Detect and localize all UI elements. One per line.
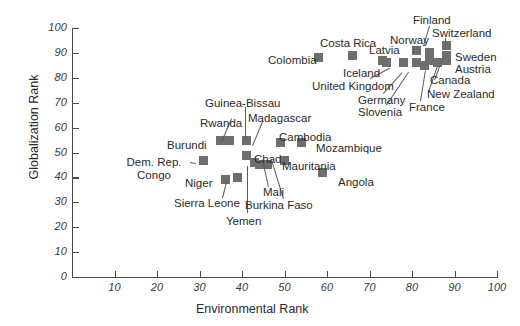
x-axis-tick bbox=[200, 271, 201, 277]
y-axis-tick bbox=[73, 128, 79, 129]
x-axis-tick bbox=[370, 271, 371, 277]
x-axis-tick bbox=[157, 271, 158, 277]
point-label-dem-rep-congo: Dem. Rep. Congo bbox=[118, 156, 190, 181]
point-label-burundi: Burundi bbox=[167, 139, 207, 151]
x-axis-tick-label: 30 bbox=[185, 281, 215, 293]
y-axis-tick-label: 40 bbox=[37, 170, 67, 182]
x-axis-tick-label: 100 bbox=[482, 281, 512, 293]
point-label-angola: Angola bbox=[338, 176, 374, 188]
point-label-mali: Mali bbox=[263, 186, 284, 198]
y-axis-tick-label: 0 bbox=[37, 270, 67, 282]
label-leader-line bbox=[190, 162, 196, 164]
y-axis-tick bbox=[73, 202, 79, 203]
data-point-marker bbox=[399, 58, 408, 67]
point-label-chad: Chad bbox=[254, 153, 282, 165]
x-axis-tick bbox=[242, 271, 243, 277]
point-label-rwanda: Rwanda bbox=[200, 117, 242, 129]
y-axis-tick bbox=[73, 103, 79, 104]
y-axis-tick bbox=[73, 227, 79, 228]
point-label-colombia: Colombia bbox=[268, 54, 317, 66]
label-leader-line bbox=[245, 107, 246, 139]
label-leader-line bbox=[413, 46, 414, 54]
data-point-marker bbox=[242, 136, 251, 145]
y-axis-tick bbox=[73, 28, 79, 29]
point-label-mozambique: Mozambique bbox=[316, 142, 382, 154]
point-label-guinea-bissau: Guinea-Bissau bbox=[205, 97, 280, 109]
point-label-costa-rica: Costa Rica bbox=[320, 37, 376, 49]
x-axis-tick-label: 90 bbox=[440, 281, 470, 293]
y-axis-tick-label: 50 bbox=[37, 146, 67, 158]
y-axis-tick-label: 30 bbox=[37, 195, 67, 207]
point-label-finland: Finland bbox=[413, 14, 451, 26]
y-axis-tick-label: 100 bbox=[37, 21, 67, 33]
y-axis-tick bbox=[73, 177, 79, 178]
point-label-united-kingdom: United Kingdom bbox=[312, 80, 394, 92]
x-axis-tick-label: 10 bbox=[100, 281, 130, 293]
point-label-yemen: Yemen bbox=[226, 215, 261, 227]
data-point-marker bbox=[225, 136, 234, 145]
data-point-marker bbox=[382, 58, 391, 67]
label-leader-line bbox=[445, 38, 446, 46]
point-label-niger: Niger bbox=[185, 177, 212, 189]
x-axis-tick-label: 70 bbox=[355, 281, 385, 293]
y-axis-tick-label: 70 bbox=[37, 96, 67, 108]
point-label-switzerland: Switzerland bbox=[432, 27, 491, 39]
x-axis-tick-label: 40 bbox=[227, 281, 257, 293]
x-axis-tick bbox=[327, 271, 328, 277]
point-label-madagascar: Madagascar bbox=[248, 112, 311, 124]
y-axis-tick bbox=[73, 252, 79, 253]
point-label-canada: Canada bbox=[430, 74, 470, 86]
x-axis-tick-label: 20 bbox=[142, 281, 172, 293]
point-label-sweden: Sweden bbox=[455, 51, 497, 63]
x-axis-tick bbox=[497, 271, 498, 277]
point-label-norway: Norway bbox=[390, 34, 429, 46]
x-axis-title: Environmental Rank bbox=[196, 302, 309, 316]
x-axis-line bbox=[72, 277, 498, 278]
data-point-marker bbox=[442, 56, 451, 65]
x-axis-tick-label: 80 bbox=[397, 281, 427, 293]
data-point-marker bbox=[442, 41, 451, 50]
scatter-chart: Globalization Rank Environmental Rank 01… bbox=[0, 0, 520, 326]
point-label-slovenia: Slovenia bbox=[358, 106, 402, 118]
x-axis-tick-label: 60 bbox=[312, 281, 342, 293]
y-axis-tick bbox=[73, 153, 79, 154]
point-label-mauritania: Mauritania bbox=[282, 160, 336, 172]
label-leader-line bbox=[222, 182, 227, 198]
y-axis-tick-label: 10 bbox=[37, 245, 67, 257]
data-point-marker bbox=[199, 156, 208, 165]
x-axis-tick-label: 50 bbox=[270, 281, 300, 293]
y-axis-tick-label: 80 bbox=[37, 71, 67, 83]
y-axis-tick-label: 90 bbox=[37, 46, 67, 58]
x-axis-tick bbox=[455, 271, 456, 277]
x-axis-tick bbox=[285, 271, 286, 277]
point-label-sierra-leone: Sierra Leone bbox=[174, 197, 240, 209]
x-axis-tick bbox=[412, 271, 413, 277]
y-axis-tick bbox=[73, 53, 79, 54]
y-axis-tick bbox=[73, 78, 79, 79]
x-axis-tick bbox=[115, 271, 116, 277]
point-label-austria: Austria bbox=[455, 63, 491, 75]
point-label-burkina-faso: Burkina Faso bbox=[245, 199, 313, 211]
data-point-marker bbox=[348, 51, 357, 60]
point-label-iceland: Iceland bbox=[343, 67, 380, 79]
data-point-marker bbox=[233, 173, 242, 182]
label-leader-line bbox=[252, 122, 263, 146]
point-label-france: France bbox=[409, 101, 445, 113]
label-leader-line bbox=[420, 70, 426, 101]
y-axis-tick-label: 20 bbox=[37, 220, 67, 232]
y-axis-tick bbox=[73, 277, 79, 278]
point-label-new-zealand: New Zealand bbox=[427, 88, 495, 100]
y-axis-tick-label: 60 bbox=[37, 121, 67, 133]
point-label-germany: Germany bbox=[358, 94, 405, 106]
